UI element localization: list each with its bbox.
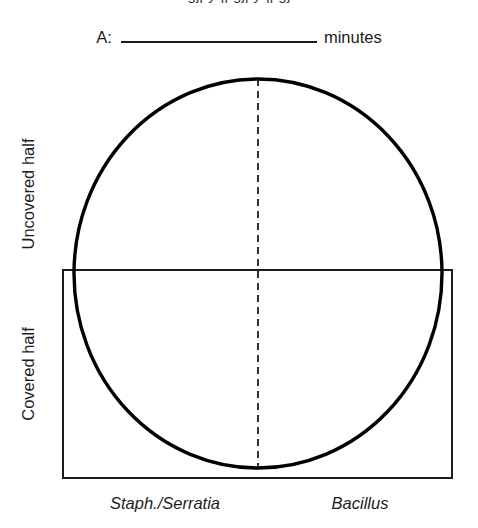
petri-dish-figure: gjpyqpgjpyqpgj A: minutes Uncovered half…: [0, 0, 478, 528]
label-staph-serratia: Staph./Serratia: [72, 494, 258, 513]
diagram-canvas: [0, 0, 478, 528]
label-covered-half: Covered half: [17, 317, 39, 431]
label-bacillus: Bacillus: [280, 494, 440, 513]
diagram-svg: [0, 0, 478, 528]
label-uncovered-half: Uncovered half: [17, 124, 39, 264]
